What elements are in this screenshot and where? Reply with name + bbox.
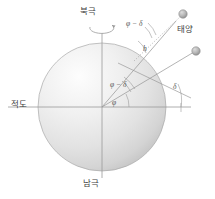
rotation-arrow-icon — [90, 25, 114, 33]
angle-arc-phi-minus-delta-top-inner — [145, 27, 152, 38]
angle-arc-phi-minus-delta-top-outer — [148, 23, 156, 35]
angle-arc-altitude-h — [138, 41, 146, 53]
celestial-sphere-marker — [192, 47, 200, 55]
sun-sphere-marker — [179, 10, 187, 18]
figure-canvas: 북극 남극 적도 태양 φ − δ h φ − δ φ δ — [0, 0, 215, 199]
earth-sun-geometry-diagram — [0, 0, 215, 199]
sun-sight-line — [134, 17, 180, 61]
